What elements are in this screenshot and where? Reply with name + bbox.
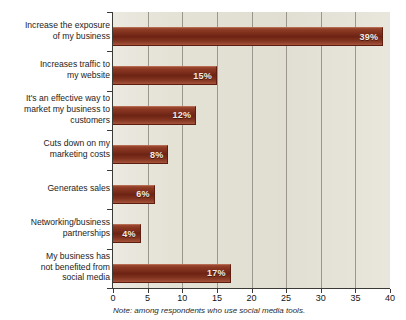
category-label-networking-partnerships: Networking/business partnerships	[4, 217, 110, 238]
y-axis-tick	[107, 170, 113, 171]
category-label-increases-traffic: Increases traffic to my website	[4, 59, 110, 80]
horizontal-bar-chart: 39% 15% 12% 8% 6% 4% 17%	[0, 0, 406, 320]
category-label-not-benefited: My business has not benefited from socia…	[4, 251, 110, 283]
y-axis-tick	[107, 209, 113, 210]
gridline-15	[217, 12, 218, 288]
y-axis-tick	[107, 91, 113, 92]
bar-value-label: 12%	[172, 110, 191, 120]
bar-generates-sales: 6%	[113, 185, 155, 204]
gridline-35	[355, 12, 356, 288]
clipped-title-remnant	[150, 0, 350, 3]
bar-value-label: 17%	[207, 268, 226, 278]
gridline-25	[286, 12, 287, 288]
plot-area: 39% 15% 12% 8% 6% 4% 17%	[113, 12, 390, 288]
x-tick-label-10: 10	[177, 293, 187, 303]
x-tick-label-25: 25	[281, 293, 291, 303]
category-label-generates-sales: Generates sales	[4, 183, 110, 194]
y-axis-line	[112, 12, 113, 289]
gridline-30	[321, 12, 322, 288]
bar-not-benefited: 17%	[113, 264, 231, 283]
bar-value-label: 6%	[136, 189, 149, 199]
x-tick-label-30: 30	[316, 293, 326, 303]
x-tick-label-0: 0	[110, 293, 115, 303]
x-tick-label-15: 15	[212, 293, 222, 303]
bar-increase-exposure: 39%	[113, 27, 383, 46]
x-tick-label-20: 20	[246, 293, 256, 303]
bar-value-label: 15%	[193, 71, 212, 81]
category-label-effective-marketing: It's an effective way to market my busin…	[4, 93, 110, 125]
bar-effective-marketing: 12%	[113, 106, 196, 125]
bar-networking-partnerships: 4%	[113, 224, 141, 243]
bar-value-label: 4%	[122, 229, 135, 239]
bar-cuts-marketing-costs: 8%	[113, 145, 168, 164]
category-label-cuts-marketing-costs: Cuts down on my marketing costs	[4, 138, 110, 159]
bar-value-label: 8%	[150, 150, 163, 160]
x-tick-label-35: 35	[350, 293, 360, 303]
category-label-increase-exposure: Increase the exposure of my business	[4, 20, 110, 41]
y-axis-tick	[107, 249, 113, 250]
y-axis-tick	[107, 51, 113, 52]
gridline-20	[252, 12, 253, 288]
y-axis-tick	[107, 12, 113, 13]
x-tick-label-5: 5	[145, 293, 150, 303]
gridline-10	[182, 12, 183, 288]
y-axis-tick	[107, 130, 113, 131]
bar-increases-traffic: 15%	[113, 66, 217, 85]
bar-value-label: 39%	[359, 32, 378, 42]
x-tick-label-40: 40	[385, 293, 395, 303]
chart-footnote: Note: among respondents who use social m…	[113, 306, 305, 315]
